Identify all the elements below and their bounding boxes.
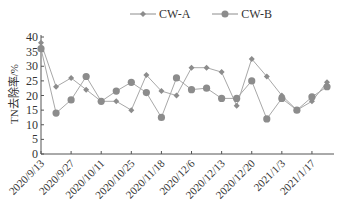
data-point [293, 107, 300, 114]
legend-item-cw-a: CW-A [130, 7, 190, 22]
data-point [248, 77, 255, 84]
y-tick-label: 35 [26, 45, 38, 59]
diamond-marker-icon [130, 9, 156, 19]
data-point [52, 109, 59, 116]
data-point [218, 95, 225, 102]
data-point [189, 65, 195, 71]
data-point [38, 40, 44, 46]
series-line-cw-b [41, 49, 327, 119]
legend-item-cw-b: CW-B [212, 7, 272, 22]
data-point [188, 86, 195, 93]
data-point [233, 95, 240, 102]
data-point [278, 95, 285, 102]
data-point [173, 74, 180, 81]
data-point [128, 79, 135, 86]
data-point [128, 107, 134, 113]
y-axis-label: TN去除率/% [5, 59, 21, 129]
data-point [53, 84, 59, 90]
data-point [323, 83, 330, 90]
y-tick-label: 25 [26, 74, 38, 88]
data-point [263, 115, 270, 122]
data-point [203, 85, 210, 92]
data-point [219, 69, 225, 75]
plot-area: 05101520253035402020/9/132020/9/272020/1… [0, 0, 340, 209]
y-tick-label: 10 [26, 118, 38, 132]
y-tick-label: 40 [26, 30, 38, 44]
data-point [37, 45, 44, 52]
legend: CW-A CW-B [130, 6, 294, 22]
legend-label: CW-A [159, 7, 190, 22]
data-point [83, 73, 90, 80]
y-tick-label: 30 [26, 59, 38, 73]
legend-label: CW-B [241, 7, 272, 22]
data-point [158, 114, 165, 121]
data-point [98, 98, 105, 105]
data-point [143, 89, 150, 96]
y-tick-label: 5 [32, 132, 38, 146]
data-point [234, 103, 240, 109]
data-point [113, 98, 119, 104]
data-point [308, 93, 315, 100]
data-point [113, 88, 120, 95]
circle-marker-icon [212, 9, 238, 19]
data-point [173, 93, 179, 99]
data-point [68, 96, 75, 103]
y-tick-label: 15 [26, 103, 38, 117]
line-chart: 05101520253035402020/9/132020/9/272020/1… [0, 0, 340, 209]
data-point [204, 65, 210, 71]
y-tick-label: 20 [26, 89, 38, 103]
